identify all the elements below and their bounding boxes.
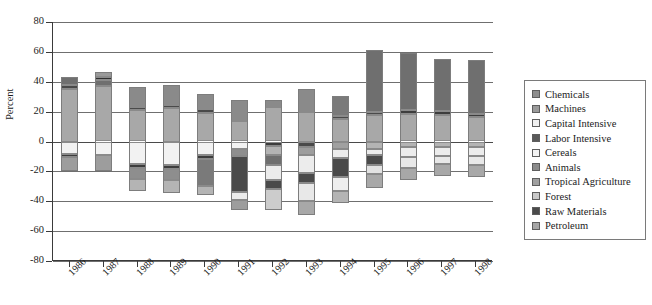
bar-segment [95, 86, 112, 141]
bar-segment [197, 186, 214, 195]
legend-item-chemicals[interactable]: Chemicals [532, 87, 639, 102]
legend-label: Forest [545, 191, 571, 202]
legend-label: Labor Intensive [545, 133, 611, 144]
bar-segment [231, 200, 248, 210]
legend-item-petroleum[interactable]: Petroleum [532, 218, 639, 233]
legend-item-capital-intensive[interactable]: Capital Intensive [532, 116, 639, 131]
bar-segment [265, 155, 282, 165]
bar-segment [129, 179, 146, 191]
bar-segment [298, 89, 315, 111]
bar-segment [366, 112, 383, 116]
bar-segment [129, 107, 146, 110]
legend-item-tropical-agriculture[interactable]: Tropical Agriculture [532, 175, 639, 190]
bar-segment [129, 142, 146, 164]
bar-segment [129, 110, 146, 141]
y-tick-label: 60 [6, 46, 44, 56]
legend-item-animals[interactable]: Animals [532, 160, 639, 175]
legend-label: Tropical Agriculture [545, 176, 631, 187]
bar-segment [61, 89, 78, 141]
bar-segment [197, 142, 214, 155]
bar-segment [434, 164, 451, 176]
bar-segment [434, 115, 451, 142]
bar-1987[interactable] [95, 22, 112, 261]
bar-1988[interactable] [129, 22, 146, 261]
bar-segment [468, 117, 485, 142]
y-tick-label: 0 [6, 136, 44, 146]
bar-segment [197, 94, 214, 109]
chart-root: Percent 806040200-20-40-60-80 1986198719… [0, 0, 652, 305]
y-tick-label: -40 [6, 195, 44, 205]
bar-segment [332, 116, 349, 119]
legend-swatch-icon [532, 163, 540, 171]
legend-item-machines[interactable]: Machines [532, 102, 639, 117]
bar-segment [129, 87, 146, 107]
bar-segment [298, 183, 315, 201]
bar-segment [231, 100, 248, 121]
bar-segment [400, 168, 417, 180]
y-tick-label: 80 [6, 16, 44, 26]
legend-item-labor-intensive[interactable]: Labor Intensive [532, 131, 639, 146]
bar-1992[interactable] [265, 22, 282, 261]
bar-segment [434, 156, 451, 163]
bar-segment [400, 110, 417, 114]
y-tick-label: 40 [6, 76, 44, 86]
bar-segment [366, 174, 383, 187]
legend-swatch-icon [532, 192, 540, 200]
bar-segment [265, 146, 282, 155]
legend-swatch-icon [532, 90, 540, 98]
bar-1986[interactable] [61, 22, 78, 261]
bar-segment [61, 77, 78, 85]
bar-segment [434, 147, 451, 156]
legend-label: Raw Materials [545, 206, 607, 217]
legend-swatch-icon [532, 149, 540, 157]
bar-segment [163, 108, 180, 142]
bar-1998[interactable] [468, 22, 485, 261]
bar-segment [163, 180, 180, 193]
bar-segment [231, 192, 248, 199]
y-tick-label: -80 [6, 255, 44, 265]
legend-swatch-icon [532, 178, 540, 186]
legend-label: Animals [545, 162, 581, 173]
bar-1989[interactable] [163, 22, 180, 261]
legend-swatch-icon [532, 119, 540, 127]
bar-segment [400, 157, 417, 167]
bar-segment [298, 155, 315, 173]
bar-segment [265, 165, 282, 180]
bar-segment [163, 85, 180, 104]
legend-item-forest[interactable]: Forest [532, 189, 639, 204]
bar-1994[interactable] [332, 22, 349, 261]
bar-1995[interactable] [366, 22, 383, 261]
bar-segment [332, 177, 349, 190]
y-tick-label: 20 [6, 106, 44, 116]
bar-segment [366, 50, 383, 111]
bar-segment [366, 115, 383, 141]
bar-1997[interactable] [434, 22, 451, 261]
legend-swatch-icon [532, 207, 540, 215]
bar-segment [95, 142, 112, 155]
bar-segment [163, 142, 180, 165]
bar-segment [231, 149, 248, 156]
bar-segment [95, 72, 112, 76]
legend-swatch-icon [532, 134, 540, 142]
bar-segment [434, 59, 451, 111]
bar-segment [265, 189, 282, 210]
bar-1996[interactable] [400, 22, 417, 261]
bar-segment [332, 191, 349, 203]
bar-segment [332, 119, 349, 141]
bar-1991[interactable] [231, 22, 248, 261]
bar-segment [197, 109, 214, 113]
y-tick-mark [46, 261, 52, 262]
legend-swatch-icon [532, 105, 540, 113]
bar-segment [231, 156, 248, 192]
bar-segment [298, 112, 315, 142]
legend-label: Cereals [545, 147, 577, 158]
legend-item-cereals[interactable]: Cereals [532, 145, 639, 160]
bar-segment [231, 142, 248, 149]
bar-segment [468, 156, 485, 164]
y-tick-label: -60 [6, 225, 44, 235]
bar-segment [298, 201, 315, 214]
bar-1990[interactable] [197, 22, 214, 261]
bar-1993[interactable] [298, 22, 315, 261]
legend-item-raw-materials[interactable]: Raw Materials [532, 204, 639, 219]
legend-label: Petroleum [545, 220, 588, 231]
